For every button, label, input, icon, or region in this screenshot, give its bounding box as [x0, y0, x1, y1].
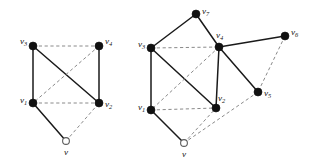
- node-v2-filled: [212, 104, 220, 112]
- node-v4-filled: [95, 42, 103, 50]
- graph-canvas: v3v4v1v2vv7v3v4v6v5v1v2v: [0, 0, 315, 166]
- node-v-hollow: [63, 138, 70, 145]
- node-label-v4: v4: [216, 30, 224, 40]
- node-v2-filled: [95, 99, 103, 107]
- edge-v3-v2: [151, 48, 216, 108]
- node-label-v: v: [64, 147, 69, 157]
- node-label-v: v: [182, 149, 187, 159]
- graph-figure: v3v4v1v2vv7v3v4v6v5v1v2v: [0, 0, 315, 166]
- node-label-v4: v4: [105, 36, 113, 46]
- edge-v4-v5: [219, 47, 258, 92]
- node-v-hollow: [181, 140, 188, 147]
- edge-layer: [33, 14, 285, 143]
- node-v3-filled: [29, 42, 37, 50]
- edge-v-v2: [184, 108, 216, 143]
- node-label-sub-v2: 2: [222, 97, 226, 104]
- edge-v6-v5: [258, 36, 285, 92]
- edge-v1-v2: [151, 108, 216, 110]
- node-label-sub-v6: 6: [295, 31, 299, 38]
- edge-v3-v4: [151, 47, 219, 48]
- node-v5-filled: [254, 88, 262, 96]
- node-label-sub-v2: 2: [109, 103, 113, 110]
- edge-v4-v6: [219, 36, 285, 47]
- node-label-sub-v5: 5: [268, 92, 271, 99]
- edge-v3-v7: [151, 14, 196, 48]
- node-label-v2: v2: [218, 93, 226, 103]
- node-label-v5: v5: [264, 88, 271, 98]
- left-graph-edges: [33, 46, 99, 141]
- node-label-sub-v1: 1: [142, 106, 145, 113]
- node-label-sub-v7: 7: [206, 10, 210, 17]
- node-v4-filled: [215, 43, 223, 51]
- node-label-sub-v3: 3: [23, 40, 27, 47]
- node-label-sub-v3: 3: [141, 43, 145, 50]
- edge-v-v2: [66, 103, 99, 141]
- node-label-v7: v7: [202, 6, 210, 16]
- node-label-v1: v1: [20, 95, 27, 105]
- right-graph-nodes: v7v3v4v6v5v1v2v: [138, 6, 299, 159]
- node-label-sub-v4: 4: [220, 34, 224, 41]
- edge-v1-v: [33, 103, 66, 141]
- node-label-sub-v4: 4: [109, 40, 113, 47]
- edge-v1-v: [151, 110, 184, 143]
- node-v7-filled: [192, 10, 200, 18]
- node-label-v6: v6: [291, 27, 299, 37]
- node-v1-filled: [147, 106, 155, 114]
- node-label-v3: v3: [20, 36, 27, 46]
- node-label-v1: v1: [138, 102, 145, 112]
- node-v3-filled: [147, 44, 155, 52]
- node-label-v2: v2: [105, 99, 113, 109]
- node-v6-filled: [281, 32, 289, 40]
- node-label-v3: v3: [138, 39, 145, 49]
- node-v1-filled: [29, 99, 37, 107]
- node-label-sub-v1: 1: [24, 99, 27, 106]
